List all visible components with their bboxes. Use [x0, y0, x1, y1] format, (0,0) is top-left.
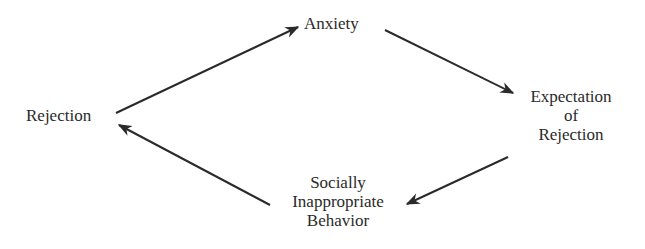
node-anxiety-line-1: Anxiety [304, 14, 359, 33]
node-rejection: Rejection [26, 106, 91, 125]
node-expectation-line-1: Expectation [516, 87, 626, 106]
arrow-rejection-to-anxiety [116, 27, 298, 113]
node-behavior-line-3: Behavior [272, 211, 404, 230]
node-socially-inappropriate-behavior: Socially Inappropriate Behavior [272, 173, 404, 230]
node-expectation-of-rejection: Expectation of Rejection [516, 87, 626, 144]
node-rejection-line-1: Rejection [26, 106, 91, 125]
node-anxiety: Anxiety [304, 14, 359, 33]
node-expectation-line-2: of [516, 106, 626, 125]
arrow-anxiety-to-expectation [385, 30, 513, 93]
node-behavior-line-2: Inappropriate [272, 192, 404, 211]
cycle-diagram: Rejection Anxiety Expectation of Rejecti… [0, 0, 645, 249]
arrow-behavior-to-rejection [119, 125, 270, 205]
node-behavior-line-1: Socially [272, 173, 404, 192]
node-expectation-line-3: Rejection [516, 125, 626, 144]
arrow-expectation-to-behavior [407, 157, 508, 204]
